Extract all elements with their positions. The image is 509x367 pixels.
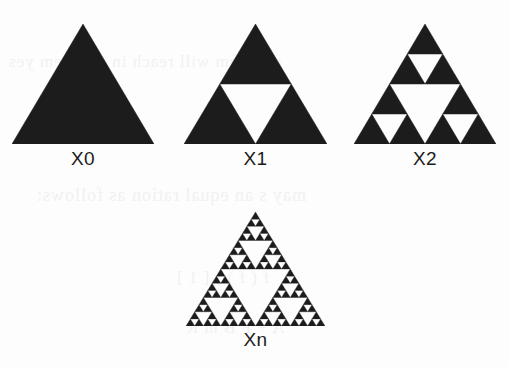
figure-label-x1: X1 [184,148,327,170]
sub-triangle [260,255,269,262]
sub-triangle [256,219,265,226]
sub-triangle [407,24,443,54]
sub-triangle [316,319,325,326]
sub-triangle [273,290,282,297]
sub-triangle [225,312,234,319]
sub-triangle [234,298,243,305]
sierpinski-triangle-xn [186,212,325,326]
sub-triangle [299,305,308,312]
figure-label-x0: X0 [12,148,154,170]
triangle-fill-group [354,24,496,144]
sub-triangle [443,84,479,114]
sub-triangle [221,290,230,297]
sub-triangle [221,276,230,283]
figure-xn: Xn [186,212,325,353]
sub-triangle [216,269,225,276]
sub-triangle [277,255,286,262]
sub-triangle [299,290,308,297]
sub-triangle [425,54,461,84]
sub-triangle [221,319,230,326]
sub-triangle [312,312,321,319]
sub-triangle [238,319,247,326]
sub-triangle [290,290,299,297]
sub-triangle [186,319,195,326]
sub-triangle [229,319,238,326]
sub-triangle [238,262,247,269]
figure-label-x2: X2 [354,148,496,170]
sub-triangle [251,212,260,219]
sub-triangle [286,269,295,276]
sub-triangle [461,114,497,144]
sub-triangle [212,276,221,283]
sub-triangle [225,255,234,262]
figure-label-xn: Xn [186,329,325,351]
figure-x0: X0 [12,24,154,172]
sub-triangle [238,233,247,240]
sub-triangle [212,290,221,297]
sub-triangle [299,319,308,326]
sub-triangle [256,233,265,240]
sub-triangle [220,24,292,84]
sub-triangle [282,262,291,269]
triangle-fill-group [12,24,154,144]
sub-triangle [184,84,256,144]
sub-triangle [195,319,204,326]
sub-triangle [208,283,217,290]
sub-triangle [221,262,230,269]
sub-triangle [273,248,282,255]
sub-triangle [208,312,217,319]
sub-triangle [242,312,251,319]
sub-triangle [273,319,282,326]
scanned-figure-page: a system will reach in a system yesmay s… [0,0,509,367]
sub-triangle [242,255,251,262]
sub-triangle [203,290,212,297]
sub-triangle [303,298,312,305]
sub-triangle [247,219,256,226]
sub-triangle [282,290,291,297]
sub-triangle [229,248,238,255]
sub-triangle [199,298,208,305]
triangle-fill-group [186,212,325,326]
sub-triangle [290,276,299,283]
sub-triangle [390,54,426,84]
sub-triangle [277,283,286,290]
sub-triangle [264,233,273,240]
sub-triangle [242,226,251,233]
sub-triangle [295,312,304,319]
sub-triangle [290,319,299,326]
sub-triangle [264,305,273,312]
sub-triangle [229,290,238,297]
triangle-fill-group [184,24,327,144]
sub-triangle [308,305,317,312]
sub-triangle [247,233,256,240]
sub-triangle [12,24,154,144]
sub-triangle [308,319,317,326]
figure-x2: X2 [354,24,496,172]
sierpinski-triangle-x2 [354,24,496,144]
sub-triangle [425,114,461,144]
sub-triangle [256,262,265,269]
sub-triangle [372,84,408,114]
sub-triangle [229,262,238,269]
sub-triangle [260,226,269,233]
sub-triangle [229,305,238,312]
sierpinski-triangle-x0 [12,24,154,144]
sub-triangle [273,305,282,312]
sub-triangle [203,305,212,312]
sub-triangle [264,262,273,269]
sub-triangle [264,248,273,255]
figure-x1: X1 [184,24,327,172]
sub-triangle [256,84,328,144]
sub-triangle [260,312,269,319]
sub-triangle [282,319,291,326]
sub-triangle [354,114,390,144]
sub-triangle [269,241,278,248]
sub-triangle [273,262,282,269]
sub-triangle [238,248,247,255]
sub-triangle [282,276,291,283]
sub-triangle [390,114,426,144]
ghost-text-line: may s an equal ration as follows: [36,185,306,206]
sub-triangle [225,283,234,290]
sub-triangle [247,319,256,326]
sub-triangle [247,262,256,269]
